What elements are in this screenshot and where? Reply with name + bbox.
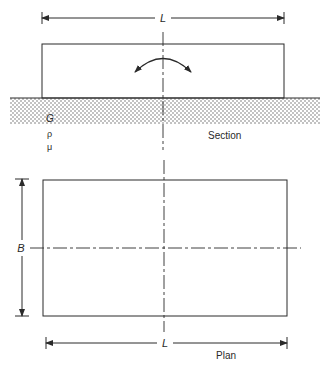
soil-layer: [10, 98, 320, 124]
plan-length-label: L: [162, 337, 168, 349]
plan-caption: Plan: [216, 350, 236, 361]
plan-width-label: B: [17, 242, 24, 254]
soil-poisson-label: μ: [47, 142, 52, 152]
soil-shear-modulus-label: G: [46, 113, 54, 124]
section-caption: Section: [208, 130, 241, 141]
section-length-label: L: [160, 12, 166, 24]
section-view: L G ρ μ Section: [10, 12, 320, 152]
plan-view: B L Plan: [15, 160, 301, 361]
soil-density-label: ρ: [47, 129, 52, 139]
foundation-diagram: L G ρ μ Section B: [0, 0, 327, 370]
